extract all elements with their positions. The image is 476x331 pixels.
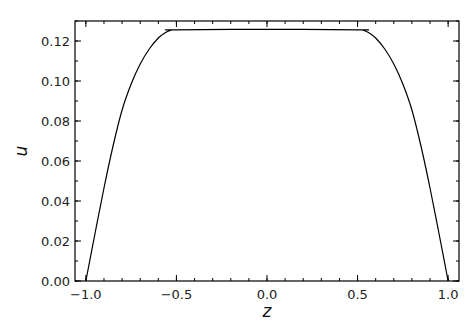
y-tick-label: 0.12 <box>41 34 70 49</box>
y-tick-label: 0.06 <box>41 154 70 169</box>
major-ticks <box>75 21 459 281</box>
minor-ticks <box>75 21 459 281</box>
y-tick-label: 0.10 <box>41 74 70 89</box>
y-axis-label: u <box>11 145 31 156</box>
y-tick-label: 0.08 <box>41 114 70 129</box>
x-tick-label: −0.5 <box>161 287 193 302</box>
x-tick-labels: −1.0−0.50.00.51.0 <box>70 287 458 302</box>
y-tick-label: 0.00 <box>41 274 70 289</box>
x-tick-label: 0.0 <box>257 287 278 302</box>
plot-frame <box>75 21 459 281</box>
line-chart: −1.0−0.50.00.51.0 0.000.020.040.060.080.… <box>0 0 476 331</box>
x-tick-label: 0.5 <box>347 287 368 302</box>
x-axis-label: z <box>262 301 273 321</box>
x-tick-label: 1.0 <box>438 287 459 302</box>
y-tick-label: 0.02 <box>41 234 70 249</box>
x-tick-label: −1.0 <box>70 287 102 302</box>
data-line <box>86 29 448 281</box>
y-tick-labels: 0.000.020.040.060.080.100.12 <box>41 34 70 289</box>
y-tick-label: 0.04 <box>41 194 70 209</box>
